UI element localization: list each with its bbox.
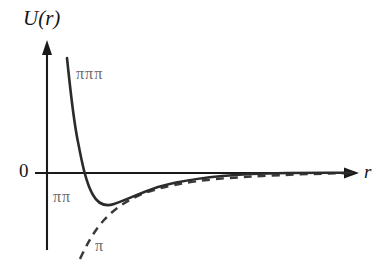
y-axis-arrowhead xyxy=(42,40,52,55)
annotation-pi-three: πππ xyxy=(76,66,103,82)
potential-energy-plot xyxy=(0,0,382,273)
annotation-pi-one: π xyxy=(95,238,104,254)
y-axis-label: U(r) xyxy=(23,8,60,29)
x-axis-label: r xyxy=(364,162,371,181)
attractive-tail-dashed-curve xyxy=(80,173,348,259)
total-potential-solid-curve xyxy=(67,58,352,205)
origin-label: 0 xyxy=(19,161,29,180)
figure-root: U(r) r 0 πππ ππ π xyxy=(0,0,382,273)
annotation-pi-two: ππ xyxy=(53,189,71,205)
